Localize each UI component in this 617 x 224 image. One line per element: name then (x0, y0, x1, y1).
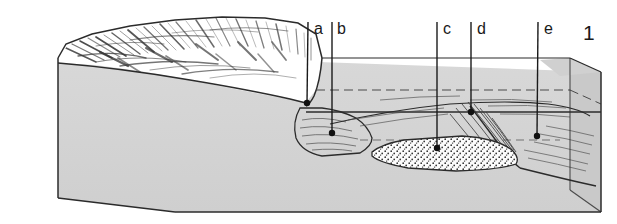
leader-a-line (307, 22, 308, 103)
leader-c-dot (434, 145, 440, 151)
leader-label-d: d (477, 20, 486, 37)
leader-label-c: c (443, 20, 451, 37)
leader-label-e: e (544, 20, 553, 37)
leader-label-a: a (314, 20, 323, 37)
leader-e-dot (534, 133, 540, 139)
leader-d-dot (468, 109, 474, 115)
leader-label-b: b (337, 20, 346, 37)
figure-container: a b c d e 1 (0, 0, 617, 224)
figure-number: 1 (583, 21, 595, 44)
leader-e-line (537, 22, 538, 136)
leader-labels-group: a b c d e (314, 20, 553, 37)
block-diagram-svg: a b c d e 1 (0, 0, 617, 224)
leader-a-dot (304, 100, 310, 106)
block-right-face (570, 58, 601, 212)
leader-b-dot (329, 130, 335, 136)
